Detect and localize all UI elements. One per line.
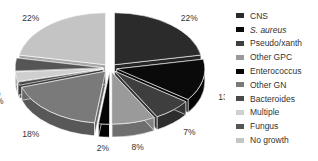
legend-swatch — [236, 96, 244, 101]
data-label: 18% — [22, 129, 39, 139]
legend-item-other-gpc: Other GPC — [236, 50, 302, 64]
data-label: 8% — [131, 142, 144, 152]
legend-swatch — [236, 124, 244, 129]
legend-item-s-aureus: S. aureus — [236, 23, 302, 37]
legend-swatch — [236, 27, 244, 32]
data-label: 1% — [0, 96, 4, 106]
legend-swatch — [236, 69, 244, 74]
legend-label: CNS — [250, 11, 268, 21]
legend-label: Multiple — [250, 107, 279, 117]
data-label: 13% — [218, 92, 225, 102]
legend-label: Bacteroides — [250, 94, 295, 104]
data-label: 2% — [97, 143, 110, 153]
legend-item-pseudo-xanth: Pseudo/xanth — [236, 37, 302, 51]
legend-swatch — [236, 138, 244, 143]
legend-label: Fungus — [250, 121, 278, 131]
legend-label: No growth — [250, 135, 289, 145]
legend-label: Enterococcus — [250, 66, 302, 76]
legend-item-other-gn: Other GN — [236, 78, 302, 92]
legend-item-enterococcus: Enterococcus — [236, 64, 302, 78]
legend-label: Other GN — [250, 80, 286, 90]
legend-item-multiple: Multiple — [236, 106, 302, 120]
data-label: 22% — [181, 13, 198, 23]
legend-label: Other GPC — [250, 52, 292, 62]
legend-swatch — [236, 13, 244, 18]
legend-label: Pseudo/xanth — [250, 38, 302, 48]
legend-swatch — [236, 110, 244, 115]
legend-swatch — [236, 55, 244, 60]
legend-item-bacteroides: Bacteroides — [236, 92, 302, 106]
legend-item-fungus: Fungus — [236, 119, 302, 133]
pie-chart: 22%13%7%8%2%18%1%3%4%22% — [0, 0, 225, 161]
legend-swatch — [236, 82, 244, 87]
data-label: 22% — [22, 13, 39, 23]
legend-label: S. aureus — [250, 25, 286, 35]
legend-item-cns: CNS — [236, 9, 302, 23]
data-label: 7% — [183, 127, 196, 137]
legend-item-no-growth: No growth — [236, 133, 302, 147]
legend-swatch — [236, 41, 244, 46]
legend: CNS S. aureus Pseudo/xanth Other GPC Ent… — [236, 9, 302, 147]
